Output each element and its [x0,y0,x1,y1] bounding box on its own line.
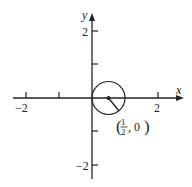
diagram-canvas: x y −2 2 2 −2 ( 1 2 , 0 ) [0,0,192,187]
fraction-denominator: 2 [121,127,126,137]
svg-text:): ) [144,117,150,136]
y-tick-label-neg2: −2 [76,159,89,173]
x-tick-label-2: 2 [154,101,160,115]
annotation-rest: , 0 [128,120,140,134]
x-tick-label-neg2: −2 [15,101,28,115]
x-axis-label: x [175,83,182,97]
y-tick-label-2: 2 [82,25,88,39]
radius-line [109,98,120,111]
y-axis-arrow-icon [89,13,95,21]
center-annotation: ( 1 2 , 0 ) [116,117,150,137]
coordinate-diagram: x y −2 2 2 −2 ( 1 2 , 0 ) [0,0,192,187]
fraction-numerator: 1 [121,117,126,127]
y-axis-label: y [81,8,88,22]
